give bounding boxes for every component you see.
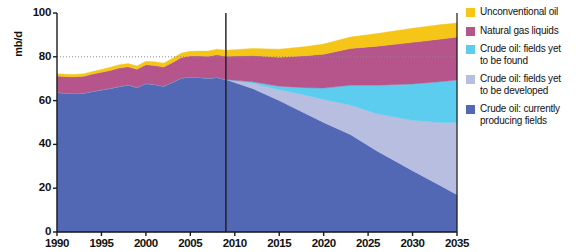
legend-item-crude-oil-fields-yet-to-be-found[interactable]: Crude oil: fields yet to be found	[466, 43, 586, 66]
legend-swatch-icon	[466, 105, 475, 114]
x-tick-label: 2020	[302, 237, 346, 249]
y-axis-unit-label: mb/d	[12, 14, 24, 74]
x-tick-label: 1995	[79, 237, 123, 249]
x-tick-label: 1990	[35, 237, 79, 249]
x-tick-label: 2000	[124, 237, 168, 249]
legend-item-natural-gas-liquids[interactable]: Natural gas liquids	[466, 25, 586, 37]
legend-item-label: Crude oil: currently producing fields	[480, 103, 560, 126]
y-tick-label: 20	[17, 181, 51, 193]
legend-item-label: Crude oil: fields yet to be found	[480, 43, 561, 66]
y-tick-label: 40	[17, 137, 51, 149]
chart-legend: Unconventional oilNatural gas liquidsCru…	[466, 6, 586, 133]
x-tick-label: 2010	[213, 237, 257, 249]
x-tick-label: 2025	[346, 237, 390, 249]
x-tick-label: 2005	[168, 237, 212, 249]
y-tick-label: 80	[17, 50, 51, 62]
legend-item-label: Unconventional oil	[480, 6, 558, 18]
oil-supply-stacked-area-chart: mb/d 100806040200 1990199520002005201020…	[0, 0, 586, 252]
legend-swatch-icon	[466, 75, 475, 84]
legend-swatch-icon	[466, 8, 475, 17]
y-tick-label: 100	[17, 6, 51, 18]
x-tick-label: 2015	[257, 237, 301, 249]
y-tick-label: 60	[17, 94, 51, 106]
x-tick-label: 2030	[391, 237, 435, 249]
legend-item-label: Crude oil: fields yet to be developed	[480, 73, 561, 96]
legend-item-crude-oil-currently-producing-fields[interactable]: Crude oil: currently producing fields	[466, 103, 586, 126]
y-tick-label: 0	[17, 225, 51, 237]
legend-item-crude-oil-fields-yet-to-be-developed[interactable]: Crude oil: fields yet to be developed	[466, 73, 586, 96]
legend-swatch-icon	[466, 27, 475, 36]
x-tick-label: 2035	[435, 237, 479, 249]
legend-item-label: Natural gas liquids	[480, 25, 558, 37]
legend-swatch-icon	[466, 45, 475, 54]
legend-item-unconventional-oil[interactable]: Unconventional oil	[466, 6, 586, 18]
